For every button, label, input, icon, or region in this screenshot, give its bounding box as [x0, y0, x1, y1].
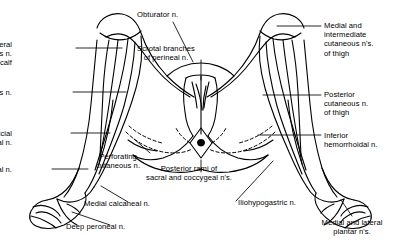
label-iliohypogastric-nerve: Iliohypogastric n.: [238, 198, 296, 207]
right-heel-pad: [321, 204, 334, 213]
label-scrotal-branches-of-perineal-nerve: Scrotal branches of perineal n.: [137, 44, 195, 62]
right-calf-outer-edge: [304, 40, 337, 197]
label-perforating-cutaneous-nerve: Perforating cutaneous n.: [96, 152, 140, 170]
ischial-left-curve: [128, 140, 157, 151]
label-medial-calcaneal-nerve: Medial calcaneal n.: [84, 199, 150, 208]
leader-iliohypogastric: [236, 161, 273, 201]
label-deep-peroneal-nerve: Deep peroneal n.: [66, 222, 125, 231]
dashed-boundary-right-upper: [239, 126, 272, 143]
right-ankle-contour: [322, 168, 354, 200]
label-obturator-nerve: Obturator n.: [137, 10, 178, 19]
dashed-boundary-left-upper: [129, 126, 162, 143]
label-saphenous-nerve: Saphenous n.: [0, 88, 12, 97]
left-heel-pad: [67, 204, 80, 213]
perineum-upper-arc: [167, 63, 234, 76]
label-sural-nerve: Sural n.: [0, 165, 12, 174]
left-calf-outer-edge: [64, 40, 97, 197]
leader-line-group: [52, 22, 352, 225]
anus-marking: [198, 140, 205, 147]
dashed-perineal-right: [212, 128, 226, 143]
left-knee-crease: [100, 31, 141, 40]
body-outline-group: [30, 14, 372, 229]
left-foot-toe-detail-3: [31, 216, 56, 228]
right-knee-crease: [260, 31, 301, 40]
label-inferior-hemorrhoidal-nerve: Inferior hemorrhoidal n.: [324, 131, 378, 149]
right-thigh-inner-contour: [211, 34, 295, 97]
label-lateral-cutaneous-nerve-of-calf: Lateral cutaneous n. of calf: [0, 40, 12, 68]
scrotum-left-edge: [184, 78, 193, 136]
left-ankle-contour: [47, 168, 79, 200]
anatomical-figure: Obturator n.Lateral cutaneous n. of calf…: [0, 0, 401, 246]
label-medial-and-lateral-plantar-nerves: Medial and lateral plantar n's.: [322, 218, 383, 236]
label-medial-and-intermediate-cutaneous-nerves-of-thigh: Medial and intermediate cutaneous n's. o…: [324, 21, 373, 58]
ischial-right-curve: [244, 140, 273, 151]
right-calf-inner-edge: [259, 36, 307, 187]
right-foot-toe-detail-1: [341, 206, 368, 217]
dashed-perineal-left: [176, 128, 190, 143]
left-foot-toe-detail-1: [33, 206, 60, 217]
leader-perforating-cutaneous: [134, 139, 150, 153]
scrotum-right-edge: [208, 78, 217, 136]
label-posterior-rami-of-sacral-and-coccygeal-nerves: Posterior rami of sacral and coccygeal n…: [146, 164, 232, 182]
label-superficial-peroneal-nerve: Superficial peroneal n.: [0, 129, 12, 147]
right-foot-dorsum: [307, 187, 344, 202]
left-foot-toe-detail-2: [36, 212, 61, 223]
label-posterior-cutaneous-nerve-of-thigh: Posterior cutaneous n. of thigh: [324, 90, 368, 118]
